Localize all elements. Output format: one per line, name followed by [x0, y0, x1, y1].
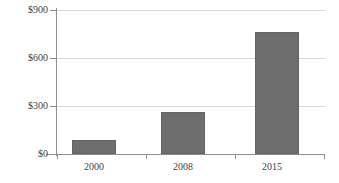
bar-2000: [72, 140, 116, 154]
x-axis-label-2008: 2008: [148, 161, 218, 172]
y-axis-line: [56, 8, 57, 156]
y-tick-600: [50, 58, 57, 59]
y-label-300-wrap: $300: [0, 101, 48, 111]
plot-area: [57, 10, 325, 154]
y-tick-900: [50, 10, 57, 11]
x-axis-line: [46, 154, 325, 155]
bar-2008: [161, 112, 205, 154]
x-tick-2: [235, 154, 236, 159]
gridline-900: [57, 10, 325, 11]
y-label-600-wrap: $600: [0, 53, 48, 63]
x-tick-0: [57, 154, 58, 159]
y-axis-label-900: $900: [2, 5, 48, 15]
bar-2015: [255, 32, 299, 154]
x-axis-label-2015: 2015: [237, 161, 307, 172]
y-tick-0: [50, 154, 57, 155]
x-tick-3: [324, 154, 325, 159]
x-tick-1: [146, 154, 147, 159]
y-label-0-wrap: $0: [0, 149, 48, 159]
bar-chart: $900 $600 $300 $0 2000 2008 2015: [0, 0, 339, 183]
y-axis-label-300: $300: [2, 101, 48, 111]
y-axis-label-0: $0: [2, 149, 48, 159]
y-axis-label-600: $600: [2, 53, 48, 63]
y-label-900-wrap: $900: [0, 5, 48, 15]
x-axis-label-2000: 2000: [59, 161, 129, 172]
y-tick-300: [50, 106, 57, 107]
